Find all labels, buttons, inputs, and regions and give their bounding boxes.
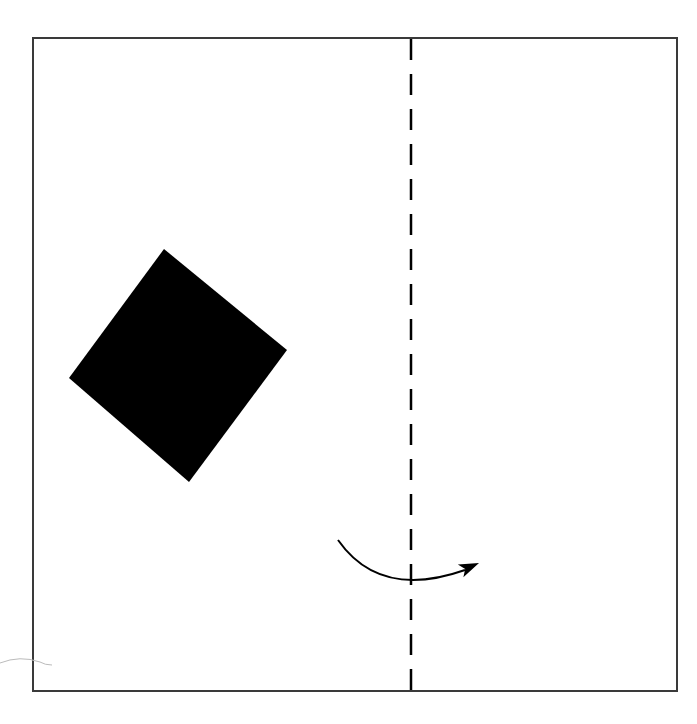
rotated-square-shape: [69, 249, 287, 482]
arrow-head-icon: [458, 563, 479, 577]
flip-diagram: [0, 0, 697, 724]
stray-pencil-mark: [0, 659, 52, 665]
curved-flip-arrow-icon: [338, 540, 465, 580]
